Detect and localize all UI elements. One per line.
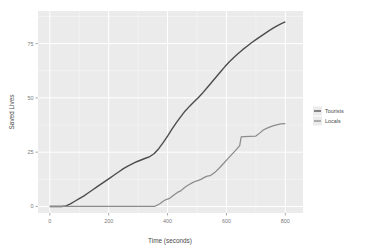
x-tick-label: 0 (48, 218, 51, 224)
y-tick-label: 0 (31, 203, 34, 209)
saved-lives-line-chart: 0200400600800 0255075 Time (seconds) Sav… (0, 0, 367, 250)
legend-label-locals: Locals (325, 118, 341, 124)
x-tick-label: 600 (222, 218, 231, 224)
plot-panel (38, 11, 303, 213)
y-axis-title: Saved Lives (8, 95, 15, 130)
y-tick-label: 75 (28, 41, 34, 47)
x-tick-label: 200 (104, 218, 113, 224)
legend-label-tourists: Tourists (325, 108, 344, 114)
y-tick-label: 50 (28, 95, 34, 101)
x-tick-label: 400 (163, 218, 172, 224)
chart-container: 0200400600800 0255075 Time (seconds) Sav… (0, 0, 367, 250)
x-axis-title: Time (seconds) (148, 237, 192, 245)
x-tick-label: 800 (281, 218, 290, 224)
y-tick-label: 25 (28, 149, 34, 155)
